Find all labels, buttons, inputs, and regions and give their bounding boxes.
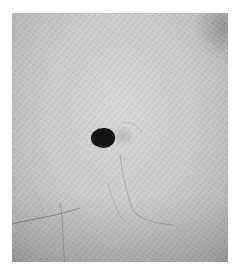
image-description: Close-up grayscale photograph of skin wi…: [0, 0, 1, 1]
hairs: [12, 13, 228, 262]
skin-photo: [12, 13, 228, 262]
